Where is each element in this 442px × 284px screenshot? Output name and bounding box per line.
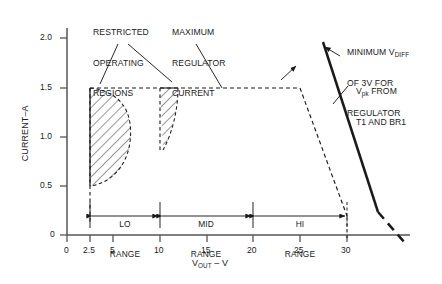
range-label-lo: LO RANGE [100, 200, 150, 269]
x-tick-label-20: 20 [247, 245, 257, 255]
range-label-mid: MID RANGE [181, 200, 231, 269]
range-label-hi: HI RANGE [275, 200, 325, 269]
annotation-maximum-line-3: CURRENT [172, 88, 226, 98]
annotation-vdiff-subscript: DIFF [395, 51, 409, 58]
x-tick-label-2-5: 2.5 [83, 245, 95, 255]
range-label-mid-line-1: MID [181, 220, 231, 230]
annotation-vpk-subscript: pk [362, 90, 369, 97]
x-tick-label-30: 30 [341, 245, 351, 255]
y-tick-label-1-5: 1.5 [40, 82, 52, 92]
y-tick-label-0-5: 0.5 [40, 180, 52, 190]
y-tick-label-0: 0 [50, 229, 55, 239]
x-tick-label-0: 0 [64, 245, 69, 255]
annotation-vdiff-text: MINIMUM V [347, 47, 395, 57]
range-label-hi-line-1: HI [275, 220, 325, 230]
annotation-vpk-text: V [356, 86, 362, 96]
annotation-restricted-line-1: RESTRICTED [93, 27, 149, 37]
annotation-restricted-line-2: OPERATING [93, 58, 149, 68]
annotation-vpk-line-1: Vpk FROM [356, 86, 406, 96]
y-axis-title: CURRENT–A [20, 93, 31, 173]
annotation-restricted-regions: RESTRICTED OPERATING REGIONS [93, 7, 149, 108]
range-label-mid-line-2: RANGE [181, 250, 231, 260]
y-tick-label-2: 2.0 [40, 32, 52, 42]
annotation-maximum-line-2: REGULATOR [172, 58, 226, 68]
annotation-vpk: Vpk FROM T1 AND BR1 [356, 66, 406, 137]
range-label-lo-line-2: RANGE [100, 250, 150, 260]
annotation-vpk-from: FROM [369, 86, 397, 96]
annotation-vdiff-line-1: MINIMUM VDIFF [347, 47, 409, 57]
x-tick-label-10: 10 [154, 245, 164, 255]
annotation-maximum-line-1: MAXIMUM [172, 27, 226, 37]
y-tick-label-1: 1.0 [40, 131, 52, 141]
y-axis-ticks [60, 38, 67, 235]
range-label-hi-line-2: RANGE [275, 250, 325, 260]
range-label-lo-line-1: LO [100, 220, 150, 230]
annotation-vpk-line-2: T1 AND BR1 [356, 117, 406, 127]
annotation-restricted-line-3: REGIONS [93, 88, 149, 98]
annotation-maximum-regulator-current: MAXIMUM REGULATOR CURRENT [172, 7, 226, 108]
